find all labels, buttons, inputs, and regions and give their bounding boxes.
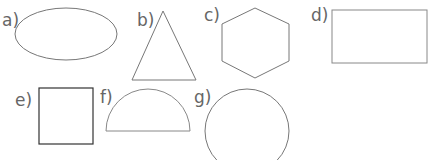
rectangle-shape	[332, 10, 427, 63]
ellipse-shape	[15, 8, 117, 60]
triangle-shape	[132, 11, 196, 80]
circle-shape	[205, 89, 289, 160]
semicircle-shape	[106, 89, 190, 131]
hexagon-shape	[222, 8, 289, 78]
square-shape	[39, 88, 93, 144]
